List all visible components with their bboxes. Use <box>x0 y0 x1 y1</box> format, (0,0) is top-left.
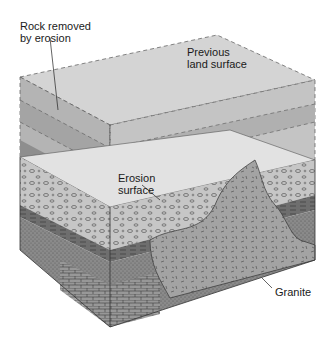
label-previous-2: land surface <box>187 58 247 70</box>
label-rock-removed-1: Rock removed <box>20 20 91 32</box>
granite-leader <box>262 278 272 288</box>
label-granite: Granite <box>275 286 311 298</box>
label-rock-removed-2: by erosion <box>20 32 71 44</box>
label-erosion-2: surface <box>118 184 154 196</box>
label-previous-1: Previous <box>187 46 230 58</box>
label-erosion-1: Erosion <box>118 172 155 184</box>
